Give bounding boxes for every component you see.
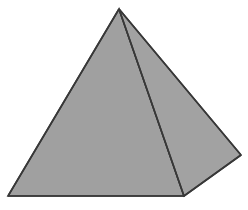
pyramid-diagram: Square pyramid (three-dimensional solid)… [0,0,248,210]
figure-stage: Square pyramid (three-dimensional solid)… [0,0,248,210]
